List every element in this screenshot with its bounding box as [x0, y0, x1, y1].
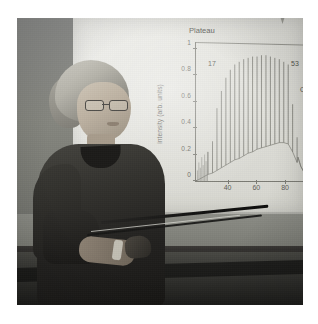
plot-axes: 0 0.2 0.4 0.6 0.8 1 40 60 80 100 [195, 42, 303, 182]
screen-notch-icon [280, 18, 285, 24]
y-tick-label: 0 [187, 171, 191, 178]
spectrum-curve [196, 42, 303, 181]
face [77, 82, 131, 140]
x-tick-label: 40 [224, 184, 232, 191]
x-tick [285, 180, 286, 184]
y-tick-label: 0.8 [181, 65, 191, 72]
annotation-plateau: Plateau [189, 26, 215, 35]
annotation-harmonic-17: 17 [208, 60, 216, 67]
y-tick-label: 0.2 [181, 144, 191, 151]
glasses-icon [85, 100, 129, 110]
photograph: intensity (arb. units) energy (eV) 0 0.2… [17, 18, 303, 305]
y-tick [193, 101, 197, 102]
hhg-spectrum-plot: intensity (arb. units) energy (eV) 0 0.2… [163, 28, 303, 200]
x-tick-label: 80 [281, 184, 289, 191]
y-tick [193, 74, 197, 75]
glasses-bridge [102, 104, 109, 105]
hand [124, 235, 152, 259]
y-tick [193, 180, 197, 181]
x-tick-label: 60 [252, 184, 260, 191]
glasses-lens-right [109, 100, 128, 111]
glasses-lens-left [85, 100, 104, 111]
y-tick-label: 0.4 [181, 118, 191, 125]
page-root: intensity (arb. units) energy (eV) 0 0.2… [0, 0, 318, 324]
y-tick [193, 154, 197, 155]
x-tick [256, 180, 257, 184]
y-tick-label: 0.6 [181, 91, 191, 98]
mouth [107, 122, 119, 126]
y-tick-label: 1 [187, 38, 191, 45]
y-tick [193, 48, 197, 49]
x-tick [228, 180, 229, 184]
presenter [33, 60, 165, 305]
y-tick [193, 127, 197, 128]
annotation-cutoff: Cutoff [300, 86, 303, 93]
annotation-harmonic-53: 53 [291, 60, 299, 67]
